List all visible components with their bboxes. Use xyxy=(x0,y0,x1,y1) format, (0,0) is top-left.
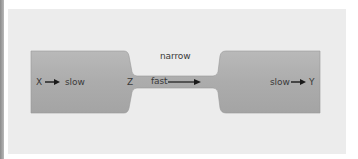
neck-arrow-icon xyxy=(168,78,202,86)
inlet-arrow-icon xyxy=(45,78,61,86)
outlet-arrow-icon xyxy=(291,78,307,86)
outlet-speed-label: slow xyxy=(270,77,290,87)
inlet-speed-label: slow xyxy=(65,77,85,87)
neck-point-label: Z xyxy=(127,77,133,87)
neck-caption-label: narrow xyxy=(160,51,191,61)
inlet-point-label: X xyxy=(36,77,42,87)
outlet-point-label: Y xyxy=(309,77,314,87)
neck-speed-label: fast xyxy=(151,76,168,86)
